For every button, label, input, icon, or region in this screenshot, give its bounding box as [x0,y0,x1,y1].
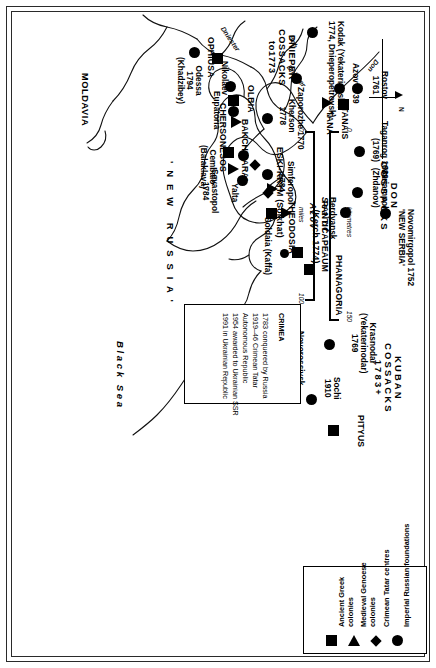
place-label-eupatoria: Eupatoria [212,91,221,129]
crimea-note-line-1: 1783 conquered by Russia [260,313,269,405]
crimea-note-line-2: 1919–46 Crimean Tatar [250,313,259,405]
north-arrow-label: N [398,107,405,112]
place-label-krasnodar: Krasnodar (Yekaterinodar) 1769 [350,313,377,373]
place-marker-sochi[interactable] [306,394,317,405]
place-label-tana: TANA [325,111,334,135]
place-marker-pityus[interactable] [328,425,339,436]
crimea-note-line-5: 1991 in Ukrainian Republic [220,313,229,409]
sea-label-black-sea: Black Sea [115,341,125,410]
place-label-ophiusa: OPHIUSA [206,37,215,78]
place-marker-novomirgopol[interactable] [380,208,391,219]
place-label-azov: Azov 1739 [351,63,360,104]
legend-symbol-diamond [370,635,381,646]
place-label-novomirgopol: Novomirgopol 1752 'NEW SERBIA' [397,209,415,286]
place-label-cembalo: Cembalo (Balaklava) [199,145,217,189]
scale-mi-max: 100 [298,293,305,304]
legend-label-genoese: Medieval Genoese colonies [360,569,377,627]
place-label-panticapeaum: PANTICAPEAUM (Kerch 1774) [310,201,329,272]
place-label-yalta: Yalta [230,183,239,202]
place-label-pityus: PITYUS [356,415,365,447]
place-marker-kodak[interactable] [307,27,318,38]
place-marker-berdyansk[interactable] [340,207,351,218]
place-label-theodosia: THEODOSIA [287,201,296,254]
legend-symbol-square [326,635,337,646]
place-label-odessa: Odessa 1794 (Khadzibey) [176,57,203,104]
place-label-zaporozhe: Zaporozhe 1770 [296,87,305,150]
place-marker-mariampol[interactable] [352,187,363,198]
place-label-kodak: Kodak (Yekaterinoslav 1774, Dnieperopetr… [327,21,345,117]
place-marker-kherson[interactable] [262,113,273,124]
map-page: N 0 150 kilometres 0 100 miles DON COSSA… [0,0,436,668]
place-label-nikolaev: Nikolaev [220,61,229,95]
place-marker-zaporozhe[interactable] [291,73,302,84]
legend-symbol-triangle [348,635,360,646]
crimea-note-line-3: Autonomous Republic [240,313,249,405]
legend-label-russian: Imperial Russian foundations [403,557,412,627]
legend-label-tatar: Crimean Tatar centres [383,565,392,627]
place-label-tanais: TANAIS [340,107,349,140]
place-marker-cembalo[interactable] [228,163,239,175]
region-label-moldavia: MOLDAVIA [79,73,89,126]
legend-label-ancient-greek: Ancient Greek colonies [338,569,355,627]
crimea-note-line-4: 1954 awarded to Ukrainian SSR [230,313,239,409]
place-marker-olbia[interactable] [228,95,239,106]
region-label-new-russia: ' N E W R U S S I A ' [165,161,175,304]
map-legend: Ancient Greek colonies Medieval Genoese … [303,566,427,654]
crimea-note-heading: CRIMEA [276,313,285,405]
scale-unit-miles: miles [298,207,305,222]
legend-symbol-circle [392,635,403,646]
place-label-olbia: OLBIA [246,85,255,113]
place-marker-simferopol[interactable] [262,169,273,180]
place-label-sochi: Sochi 1910 [323,377,341,400]
place-label-simferopol: Simferopol 1784 [277,161,295,204]
place-label-kherson: Kherson 1778 [278,99,296,133]
place-label-soldaia: Soldaia (Kaffa) [263,217,272,275]
place-label-rostov: Rostov 1761 [371,71,389,99]
place-label-taganrog: Taganrog 1689 (1769) [371,121,389,179]
place-label-phanagoria: PHANAGORIA [334,255,343,316]
place-marker-taganrog[interactable] [354,146,365,157]
crimea-note-box: CRIMEA 1783 conquered by Russia 1919–46 … [184,304,301,404]
place-marker-krasnodar[interactable] [324,339,335,350]
place-label-bakchisarai: BAKCHISARAI [240,119,249,181]
